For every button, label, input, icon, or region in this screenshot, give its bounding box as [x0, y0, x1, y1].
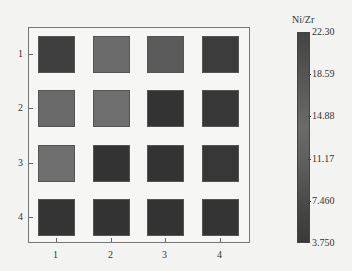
heatmap-cell: [202, 199, 239, 236]
y-tick-mark: [29, 54, 33, 55]
y-tick-label: 3: [18, 157, 23, 168]
heatmap-cell: [147, 199, 184, 236]
heatmap-cell: [202, 145, 239, 182]
heatmap-cell: [202, 36, 239, 73]
heatmap-cell: [38, 36, 75, 73]
heatmap-cell: [93, 199, 130, 236]
heatmap-cell: [147, 36, 184, 73]
heatmap-cell: [93, 145, 130, 182]
colorbar-tick-label: 18.59: [312, 68, 335, 79]
y-tick-mark: [29, 163, 33, 164]
heatmap-cell: [147, 145, 184, 182]
heatmap-cell: [38, 90, 75, 127]
x-tick-mark: [220, 238, 221, 242]
colorbar-tick-label: 7.460: [312, 195, 335, 206]
x-tick-label: 1: [53, 249, 58, 260]
heatmap-cell: [38, 145, 75, 182]
colorbar: [297, 32, 310, 243]
colorbar-tick-label: 11.17: [312, 153, 334, 164]
colorbar-tick-label: 3.750: [312, 237, 335, 248]
y-tick-mark: [29, 217, 33, 218]
heatmap-cell: [93, 36, 130, 73]
y-tick-label: 2: [18, 102, 23, 113]
x-tick-label: 4: [217, 249, 222, 260]
colorbar-tick-label: 14.88: [312, 110, 335, 121]
colorbar-tick-mark: [308, 159, 311, 160]
colorbar-tick-mark: [308, 74, 311, 75]
y-tick-label: 1: [18, 48, 23, 59]
colorbar-tick-label: 22.30: [312, 26, 335, 37]
x-tick-label: 2: [108, 249, 113, 260]
x-tick-mark: [56, 238, 57, 242]
y-tick-mark: [29, 108, 33, 109]
heatmap-cell: [147, 90, 184, 127]
colorbar-tick-mark: [308, 201, 311, 202]
heatmap-cell: [38, 199, 75, 236]
heatmap-cell: [202, 90, 239, 127]
x-tick-mark: [111, 238, 112, 242]
colorbar-title: Ni/Zr: [292, 14, 314, 25]
x-tick-label: 3: [162, 249, 167, 260]
y-tick-label: 4: [18, 211, 23, 222]
heatmap-cell: [93, 90, 130, 127]
colorbar-tick-mark: [308, 116, 311, 117]
x-tick-mark: [165, 238, 166, 242]
